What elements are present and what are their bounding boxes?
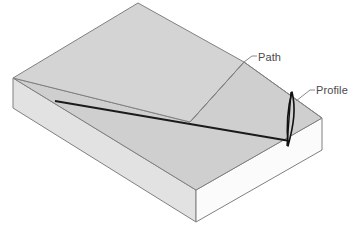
path-leader-line [244,56,257,62]
profile-leader-line [296,90,315,101]
block-diagram-figure: Path Profile [0,0,362,228]
block-diagram-svg [0,0,362,228]
path-label: Path [258,51,281,63]
profile-label: Profile [316,84,348,96]
